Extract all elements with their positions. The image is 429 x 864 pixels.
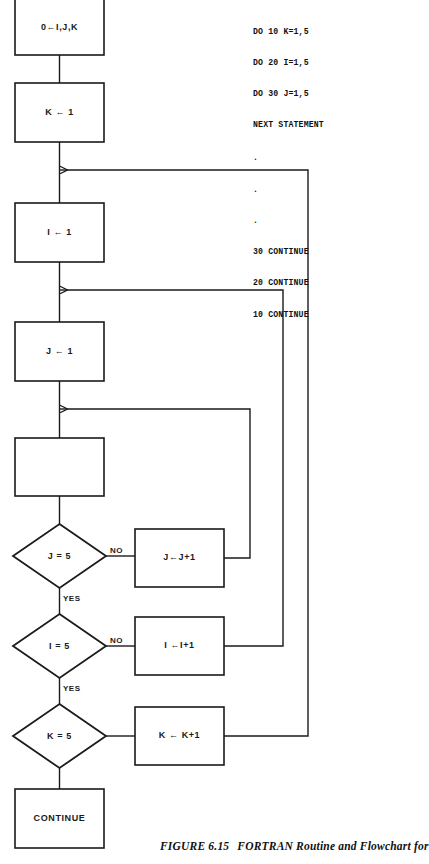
flow-connectors-no-branch <box>106 556 135 736</box>
node-j-test-diamond: J = 5 <box>13 524 106 588</box>
code-line-next-statement: NEXT STATEMENT <box>253 120 324 130</box>
figure-caption-number: FIGURE 6.15 <box>160 840 229 852</box>
code-line-do10: DO 10 K=1,5 <box>253 27 324 37</box>
node-continue-box: CONTINUE <box>15 789 104 848</box>
code-line-continue-30: 30 CONTINUE <box>253 247 324 257</box>
code-line-do20: DO 20 I=1,5 <box>253 58 324 68</box>
node-i-init-box: I ← 1 <box>15 203 104 262</box>
node-j-test-label: J = 5 <box>48 551 71 561</box>
fortran-code-listing: DO 10 K=1,5 DO 20 I=1,5 DO 30 J=1,5 NEXT… <box>253 6 324 341</box>
node-k-init-box: K ← 1 <box>15 83 104 142</box>
node-k-test-diamond: K = 5 <box>13 704 106 768</box>
edge-label-j-no: NO <box>110 546 123 555</box>
node-j-init-box: J ← 1 <box>15 322 104 381</box>
node-k-init-label: K ← 1 <box>45 107 74 117</box>
code-line-continue-10: 10 CONTINUE <box>253 310 324 320</box>
node-init-box: 0←I,J,K <box>15 0 104 55</box>
code-ellipsis-3: . <box>253 215 324 226</box>
edge-label-i-no: NO <box>110 636 123 645</box>
node-j-incr-label: J←J+1 <box>163 552 195 562</box>
node-i-test-label: I = 5 <box>49 641 70 651</box>
node-k-incr-label: K ← K+1 <box>159 730 200 740</box>
node-i-incr-box: I ←I+1 <box>135 617 224 675</box>
node-k-incr-box: K ← K+1 <box>135 707 224 765</box>
node-i-init-label: I ← 1 <box>47 227 72 237</box>
code-line-continue-20: 20 CONTINUE <box>253 278 324 288</box>
node-j-incr-box: J←J+1 <box>135 529 224 587</box>
node-j-init-label: J ← 1 <box>46 346 73 356</box>
edge-label-j-yes: YES <box>63 594 81 603</box>
figure-caption: FIGURE 6.15FORTRAN Routine and Flowchart… <box>160 840 429 852</box>
node-k-test-label: K = 5 <box>47 731 72 741</box>
node-next-statement-box <box>15 438 104 496</box>
code-line-do30: DO 30 J=1,5 <box>253 89 324 99</box>
code-ellipsis-2: . <box>253 184 324 195</box>
figure-caption-text: FORTRAN Routine and Flowchart for <box>237 840 428 852</box>
edge-label-i-yes: YES <box>63 684 81 693</box>
node-continue-label: CONTINUE <box>34 813 86 823</box>
code-ellipsis-1: . <box>253 152 324 163</box>
node-i-test-diamond: I = 5 <box>13 614 106 678</box>
node-i-incr-label: I ←I+1 <box>164 640 194 650</box>
node-init-label: 0←I,J,K <box>41 22 78 32</box>
